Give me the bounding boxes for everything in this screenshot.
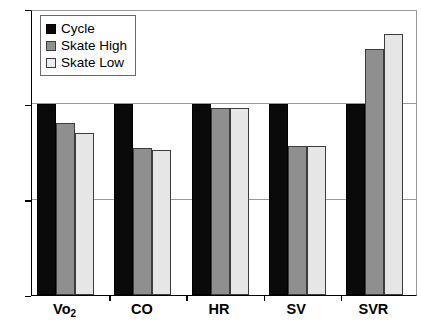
bar-svr-skatelow — [384, 34, 403, 295]
bar-sv-skatehigh — [288, 146, 307, 295]
legend-swatch-skatehigh — [46, 41, 56, 51]
bar-svr-cycle — [346, 104, 365, 295]
bar-co-skatelow — [152, 150, 171, 295]
x-axis-label-text: Vo — [53, 301, 70, 317]
x-axis-label-text: SV — [287, 301, 306, 317]
bar-chart: 050100150 Vo2COHRSVSVR CycleSkate HighSk… — [0, 0, 421, 327]
legend-item-cycle: Cycle — [46, 20, 127, 37]
bar-hr-skatehigh — [211, 108, 230, 295]
bar-svr-skatehigh — [365, 49, 384, 295]
x-axis-label-text: CO — [131, 301, 153, 317]
bar-vo2-skatelow — [75, 133, 94, 295]
bar-group-hr — [192, 11, 249, 295]
legend-label: Skate Low — [61, 55, 124, 70]
bar-hr-cycle — [192, 104, 211, 295]
x-axis-label-text: HR — [209, 301, 230, 317]
bar-vo2-cycle — [37, 104, 56, 295]
chart-legend: CycleSkate HighSkate Low — [40, 15, 136, 76]
legend-label: Cycle — [61, 21, 95, 36]
bar-group-sv — [269, 11, 326, 295]
bar-hr-skatelow — [230, 108, 249, 295]
x-axis-label-svr: SVR — [328, 301, 418, 317]
bar-co-skatehigh — [133, 148, 152, 295]
bar-sv-skatelow — [307, 146, 326, 295]
bar-co-cycle — [114, 104, 133, 295]
bar-group-svr — [346, 11, 403, 295]
legend-swatch-cycle — [46, 24, 56, 34]
bar-sv-cycle — [269, 104, 288, 295]
legend-item-skatehigh: Skate High — [46, 37, 127, 54]
legend-swatch-skatelow — [46, 58, 56, 68]
x-axis-label-text: SVR — [358, 301, 388, 317]
bar-vo2-skatehigh — [56, 123, 75, 295]
legend-label: Skate High — [61, 38, 127, 53]
x-axis-label-subscript: 2 — [71, 308, 77, 319]
legend-item-skatelow: Skate Low — [46, 54, 127, 71]
